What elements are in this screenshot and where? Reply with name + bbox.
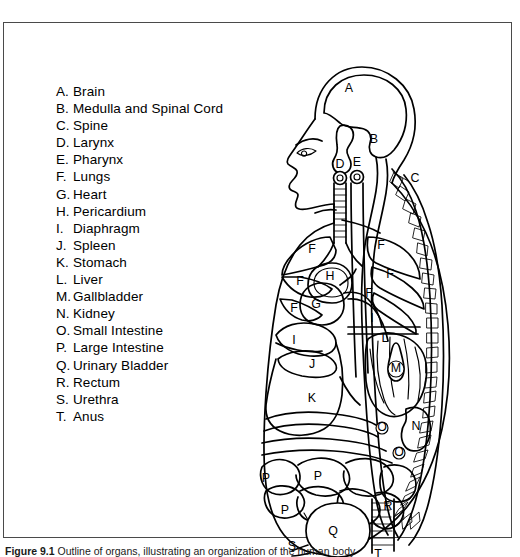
legend-item-pharynx: E.Pharynx: [56, 151, 256, 168]
legend-item-label: Spleen: [73, 237, 116, 254]
marker-F-6: F: [365, 286, 373, 300]
marker-P-3: P: [281, 503, 289, 517]
torso-outline: [264, 183, 449, 555]
legend-item-label: Diaphragm: [73, 220, 140, 237]
legend-item-medulla-and-spinal-cord: B.Medulla and Spinal Cord: [56, 100, 256, 117]
legend-item-key: G.: [56, 186, 73, 203]
face-features: [296, 139, 322, 156]
marker-D: D: [336, 157, 345, 171]
marker-P-2: P: [314, 469, 322, 483]
legend-item-key: R.: [56, 374, 73, 391]
legend-item-label: Medulla and Spinal Cord: [73, 100, 223, 117]
legend-item-key: Q.: [56, 357, 73, 374]
legend-item-label: Urethra: [73, 391, 119, 408]
legend-item-key: E.: [56, 151, 73, 168]
legend-item-label: Spine: [73, 117, 108, 134]
legend-item-key: L.: [56, 271, 73, 288]
marker-I-1: I: [292, 333, 295, 347]
legend-item-heart: G.Heart: [56, 186, 256, 203]
legend-item-liver: L.Liver: [56, 271, 256, 288]
marker-Q: Q: [328, 524, 338, 538]
legend-item-label: Liver: [73, 271, 103, 288]
legend-item-label: Gallbladder: [73, 288, 143, 305]
legend-item-key: S.: [56, 391, 73, 408]
legend-item-label: Kidney: [73, 305, 115, 322]
marker-G: G: [311, 297, 321, 311]
legend-item-urinary-bladder: Q.Urinary Bladder: [56, 357, 256, 374]
legend-item-key: F.: [56, 168, 73, 185]
legend-item-label: Anus: [73, 408, 104, 425]
legend-item-small-intestine: O.Small Intestine: [56, 322, 256, 339]
figure-caption: Figure 9.1 Outline of organs, illustrati…: [5, 545, 505, 557]
marker-O-1: O: [377, 420, 387, 434]
legend-item-brain: A.Brain: [56, 83, 256, 100]
legend-item-diaphragm: I.Diaphragm: [56, 220, 256, 237]
marker-M: M: [391, 361, 401, 375]
marker-P-1: P: [262, 471, 270, 485]
legend-item-label: Brain: [73, 83, 105, 100]
anatomy-diagram: A B C D E F F F F F F G H I I J K L M N: [252, 47, 520, 557]
marker-H: H: [326, 269, 335, 283]
legend-item-label: Rectum: [73, 374, 120, 391]
legend-item-gallbladder: M.Gallbladder: [56, 288, 256, 305]
marker-F-2: F: [377, 238, 385, 252]
marker-N: N: [412, 419, 421, 433]
legend-item-key: N.: [56, 305, 73, 322]
legend-item-larynx: D.Larynx: [56, 134, 256, 151]
marker-I-2: I: [370, 311, 373, 325]
legend-item-key: I.: [56, 220, 73, 237]
organ-legend-list: A.BrainB.Medulla and Spinal CordC.SpineD…: [56, 83, 256, 425]
legend-item-label: Stomach: [73, 254, 127, 271]
legend-item-spleen: J.Spleen: [56, 237, 256, 254]
legend-item-key: T.: [56, 408, 73, 425]
legend-item-key: A.: [56, 83, 73, 100]
legend-item-key: O.: [56, 322, 73, 339]
marker-E: E: [353, 155, 361, 169]
marker-O-2: O: [394, 445, 404, 459]
legend-item-urethra: S.Urethra: [56, 391, 256, 408]
tracheal-rings: [334, 189, 346, 237]
legend-item-label: Lungs: [73, 168, 110, 185]
legend-item-kidney: N.Kidney: [56, 305, 256, 322]
larynx-trachea: [318, 172, 362, 268]
legend-item-lungs: F.Lungs: [56, 168, 256, 185]
marker-C: C: [411, 171, 420, 185]
legend-item-label: Large Intestine: [73, 339, 164, 356]
legend-item-key: P.: [56, 339, 73, 356]
marker-L: L: [382, 331, 389, 345]
marker-F-3: F: [296, 274, 304, 288]
legend-item-key: M.: [56, 288, 73, 305]
marker-J: J: [309, 357, 315, 371]
legend-item-key: H.: [56, 203, 73, 220]
marker-R: R: [384, 499, 393, 513]
legend-item-key: J.: [56, 237, 73, 254]
legend-item-pericardium: H.Pericardium: [56, 203, 256, 220]
legend-item-spine: C.Spine: [56, 117, 256, 134]
figure-caption-label: Figure 9.1: [5, 545, 55, 557]
legend-item-label: Heart: [73, 186, 107, 203]
legend-item-stomach: K.Stomach: [56, 254, 256, 271]
legend-item-key: D.: [56, 134, 73, 151]
legend-item-large-intestine: P.Large Intestine: [56, 339, 256, 356]
marker-F-5: F: [290, 301, 298, 315]
figure-caption-text: Outline of organs, illustrating an organ…: [58, 545, 356, 557]
marker-F-1: F: [308, 242, 316, 256]
legend-item-anus: T.Anus: [56, 408, 256, 425]
legend-item-label: Pericardium: [73, 203, 146, 220]
legend-item-label: Larynx: [73, 134, 114, 151]
legend-item-rectum: R.Rectum: [56, 374, 256, 391]
legend-item-key: K.: [56, 254, 73, 271]
marker-K: K: [308, 391, 317, 405]
figure-border-frame: A.BrainB.Medulla and Spinal CordC.SpineD…: [3, 22, 512, 538]
legend-item-label: Urinary Bladder: [73, 357, 168, 374]
legend-item-key: C.: [56, 117, 73, 134]
legend-item-label: Pharynx: [73, 151, 123, 168]
marker-A: A: [345, 81, 354, 95]
legend-item-label: Small Intestine: [73, 322, 163, 339]
legend-item-key: B.: [56, 100, 73, 117]
marker-F-4: F: [386, 267, 394, 281]
marker-B: B: [370, 132, 378, 146]
